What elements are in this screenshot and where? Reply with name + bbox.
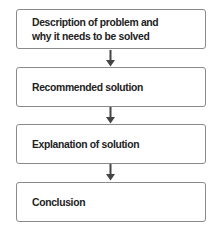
step-box-explanation-of-solution: Explanation of solution <box>16 124 206 164</box>
step-box-problem-description: Description of problem and why it needs … <box>16 9 206 49</box>
step-label: Conclusion <box>32 195 85 209</box>
arrow-down-icon <box>106 107 115 124</box>
step-box-recommended-solution: Recommended solution <box>16 67 206 107</box>
step-label: Explanation of solution <box>32 137 139 151</box>
arrow-down-icon <box>106 50 115 67</box>
step-box-conclusion: Conclusion <box>16 182 206 222</box>
step-label: Recommended solution <box>32 80 143 94</box>
step-label: Description of problem and why it needs … <box>32 15 158 43</box>
arrow-down-icon <box>106 164 115 181</box>
